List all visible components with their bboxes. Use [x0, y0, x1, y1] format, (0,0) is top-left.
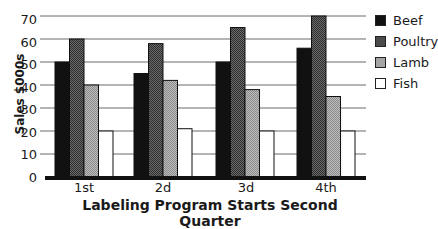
y-tick-60: 60: [15, 36, 37, 50]
legend: Beef Poultry Lamb Fish: [375, 10, 438, 94]
legend-label-poultry: Poultry: [393, 34, 438, 49]
y-tick-10: 10: [15, 148, 37, 162]
bar-beef-2d: [134, 74, 149, 178]
bar-beef-3d: [216, 62, 231, 177]
bar-fish-1st: [99, 131, 114, 177]
legend-item-fish: Fish: [375, 73, 438, 94]
bar-poultry-1st: [70, 39, 85, 177]
y-tick-40: 40: [15, 81, 37, 95]
x-category-4th: 4th: [306, 180, 346, 195]
bar-poultry-3d: [231, 28, 246, 178]
legend-item-beef: Beef: [375, 10, 438, 31]
y-tick-50: 50: [15, 58, 37, 72]
bar-poultry-4th: [312, 16, 327, 177]
bar-lamb-3d: [245, 90, 260, 177]
bar-fish-3d: [260, 131, 275, 177]
y-tick-20: 20: [15, 126, 37, 140]
bar-fish-2d: [178, 129, 193, 177]
x-category-2d: 2d: [143, 180, 183, 195]
bar-lamb-2d: [163, 80, 178, 177]
legend-item-poultry: Poultry: [375, 31, 438, 52]
y-tick-0: 0: [15, 171, 37, 185]
bar-lamb-1st: [84, 85, 99, 177]
legend-swatch-poultry: [375, 36, 386, 47]
legend-label-beef: Beef: [393, 13, 423, 28]
legend-swatch-beef: [375, 15, 386, 26]
legend-item-lamb: Lamb: [375, 52, 438, 73]
y-tick-30: 30: [15, 103, 37, 117]
bar-beef-4th: [297, 48, 312, 177]
x-category-1st: 1st: [64, 180, 104, 195]
bar-fish-4th: [341, 131, 356, 177]
x-category-3d: 3d: [226, 180, 266, 195]
y-tick-70: 70: [15, 13, 37, 27]
legend-swatch-lamb: [375, 57, 386, 68]
x-axis-label: Labeling Program Starts Second Quarter: [50, 197, 370, 229]
legend-label-fish: Fish: [393, 76, 418, 91]
bars: [55, 16, 355, 177]
legend-label-lamb: Lamb: [393, 55, 429, 70]
bar-poultry-2d: [149, 44, 164, 177]
bar-lamb-4th: [326, 97, 341, 178]
legend-swatch-fish: [375, 78, 386, 89]
bar-beef-1st: [55, 62, 70, 177]
